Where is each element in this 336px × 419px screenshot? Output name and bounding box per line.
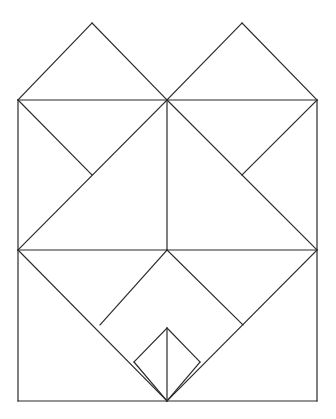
canvas-background <box>0 0 336 419</box>
drawing-canvas <box>0 0 336 419</box>
geometric-figure <box>0 0 336 419</box>
